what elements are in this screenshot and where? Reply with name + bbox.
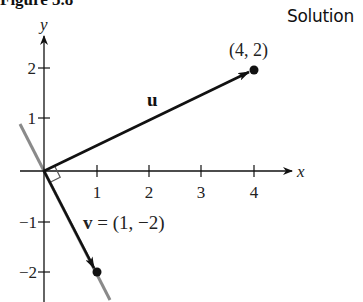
x-tick-label-2: 2 [145,183,154,202]
x-axis-label: x [296,162,305,181]
y-tick-label-2: 2 [28,59,37,78]
vector-u-label: u [147,89,158,110]
vector-v-label: v = (1, −2) [83,212,165,234]
vector-v-label-value: = (1, −2) [93,212,165,234]
vector-diagram: 1 2 3 4 2 1 −1 −2 x y (4, 2) u v = (1, −… [0,0,363,302]
x-tick-label-4: 4 [250,183,259,202]
y-tick-label-neg1: −1 [19,213,37,232]
vector-u [44,72,249,171]
y-axis-label: y [38,15,48,34]
point-u-label: (4, 2) [229,40,268,61]
x-tick-label-1: 1 [93,183,102,202]
point-u [250,66,259,75]
x-tick-label-3: 3 [197,183,206,202]
y-tick-label-1: 1 [28,109,37,128]
point-v [93,268,102,277]
y-tick-label-neg2: −2 [19,263,37,282]
vector-v-label-name: v [83,212,93,233]
